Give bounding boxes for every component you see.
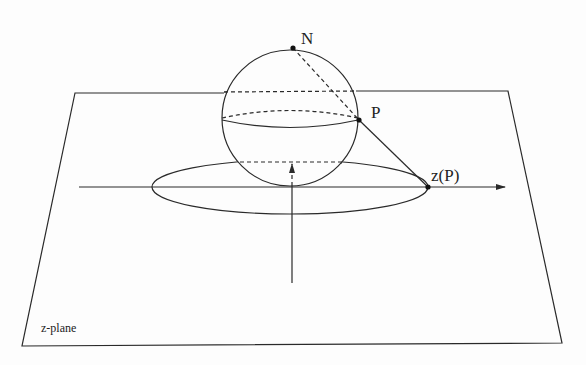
point-p-dot bbox=[356, 117, 361, 122]
stereographic-projection-diagram: N P z(P) z-plane bbox=[0, 0, 586, 365]
projection-line bbox=[359, 120, 428, 187]
diagram-canvas bbox=[0, 0, 586, 365]
label-point-p: P bbox=[371, 104, 380, 121]
north-pole-dot bbox=[290, 45, 295, 50]
riemann-sphere bbox=[222, 50, 358, 186]
projection-point-dot bbox=[425, 184, 430, 189]
label-north-pole: N bbox=[301, 30, 313, 47]
label-z-plane: z-plane bbox=[41, 322, 76, 334]
label-projection: z(P) bbox=[431, 167, 459, 184]
